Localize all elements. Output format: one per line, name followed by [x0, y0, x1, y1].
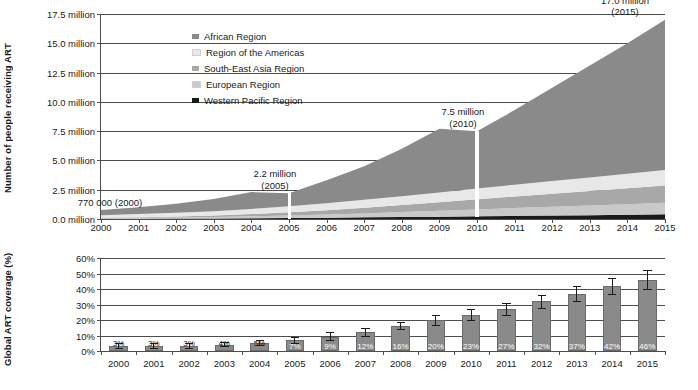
error-bar-cap-upper-2000: [115, 343, 123, 344]
bottom-chart-x-tick-label-2011: 2011: [488, 358, 524, 369]
error-bar-cap-lower-2014: [608, 294, 616, 295]
legend-item-south-east-asia-region[interactable]: South-East Asia Region: [192, 60, 392, 76]
top-chart-x-tick-label-2009: 2009: [421, 222, 457, 233]
error-bar-cap-lower-2008: [397, 329, 405, 330]
legend-swatch-icon: [192, 66, 199, 71]
bottom-chart-x-tick-label-2013: 2013: [559, 358, 595, 369]
legend-swatch-icon: [192, 98, 199, 103]
legend-item-label: South-East Asia Region: [204, 63, 304, 74]
bottom-chart-x-tickmark: [524, 351, 525, 355]
bottom-chart-x-tick-label-2008: 2008: [383, 358, 419, 369]
bottom-chart-y-tick-label: 0%: [81, 346, 95, 357]
top-chart-x-tick-label-2012: 2012: [534, 222, 570, 233]
error-bar-2011: [506, 303, 507, 315]
callout-2010-year: (2010): [411, 118, 515, 130]
bottom-chart-x-tickmark: [101, 351, 102, 355]
bottom-chart-x-tick-label-2006: 2006: [312, 358, 348, 369]
bar-2015[interactable]: [638, 280, 656, 351]
error-bar-cap-lower-2001: [150, 348, 158, 349]
bottom-chart-x-tickmark: [665, 351, 666, 355]
top-chart-x-tick-label-2014: 2014: [609, 222, 645, 233]
bottom-chart-x-tick-label-2000: 2000: [101, 358, 137, 369]
top-chart-y-axis-label: Number of people receiving ART: [2, 18, 16, 218]
top-chart-y-tick-label: 2.5 million: [52, 184, 95, 195]
bar-value-label-2006: 9%: [317, 342, 343, 351]
legend-swatch-icon: [192, 81, 201, 88]
error-bar-2009: [435, 315, 436, 324]
error-bar-cap-upper-2004: [256, 340, 264, 341]
error-bar-cap-upper-2001: [150, 343, 158, 344]
error-bar-2013: [576, 286, 577, 302]
error-bar-cap-lower-2002: [185, 348, 193, 349]
bottom-chart-x-tickmark: [454, 351, 455, 355]
bottom-chart-x-tickmark: [630, 351, 631, 355]
top-chart-y-tick-label: 5.0 million: [52, 155, 95, 166]
bottom-chart-x-tick-label-2014: 2014: [594, 358, 630, 369]
bottom-chart-y-tick-label: 60%: [76, 253, 95, 264]
top-chart-x-tick-label-2010: 2010: [459, 222, 495, 233]
error-bar-cap-upper-2013: [573, 286, 581, 287]
top-chart-x-tick-label-2013: 2013: [572, 222, 608, 233]
top-chart-legend: African RegionRegion of the AmericasSout…: [192, 28, 392, 109]
top-chart-x-tick-label-2000: 2000: [83, 222, 119, 233]
bottom-chart-x-tickmark: [242, 351, 243, 355]
legend-item-european-region[interactable]: European Region: [192, 77, 392, 93]
error-bar-cap-lower-2005: [291, 343, 299, 344]
top-chart-y-tick-label: 12.5 million: [47, 67, 95, 78]
bottom-chart-x-tick-label-2012: 2012: [524, 358, 560, 369]
callout-2015-year: (2015): [573, 6, 677, 18]
error-bar-cap-upper-2003: [220, 342, 228, 343]
top-chart-x-tick-label-2008: 2008: [384, 222, 420, 233]
bottom-chart-x-tick-label-2001: 2001: [136, 358, 172, 369]
error-bar-cap-upper-2014: [608, 278, 616, 279]
callout-2000-value: 770 000 (2000): [62, 197, 158, 209]
error-bar-cap-lower-2004: [256, 345, 264, 346]
error-bar-cap-lower-2012: [538, 308, 546, 309]
bottom-chart-x-tickmark: [559, 351, 560, 355]
bottom-chart-x-tickmark: [207, 351, 208, 355]
art-coverage-figure: Number of people receiving ART 17.5 mill…: [0, 0, 698, 390]
callout-2000: 770 000 (2000): [62, 197, 158, 209]
bar-value-label-2007: 12%: [352, 342, 378, 351]
callout-2005-value: 2.2 million: [223, 168, 327, 180]
bottom-chart-plot-area: 3%3%3%4%5%7%9%12%16%20%23%27%32%37%42%46…: [101, 258, 665, 351]
legend-item-region-of-the-americas[interactable]: Region of the Americas: [192, 44, 392, 60]
error-bar-2007: [365, 328, 366, 336]
bottom-chart-x-tickmark: [418, 351, 419, 355]
error-bar-2015: [647, 270, 648, 289]
error-bar-cap-lower-2015: [643, 289, 651, 290]
bottom-chart-x-tick-label-2015: 2015: [629, 358, 665, 369]
bottom-chart-x-tickmark: [348, 351, 349, 355]
error-bar-cap-lower-2000: [115, 348, 123, 349]
legend-item-african-region[interactable]: African Region: [192, 28, 392, 44]
bottom-chart-x-tickmark: [383, 351, 384, 355]
bottom-chart-y-tick-label: 10%: [76, 330, 95, 341]
bar-value-label-2010: 23%: [458, 342, 484, 351]
top-chart-x-tick-label-2004: 2004: [233, 222, 269, 233]
error-bar-cap-upper-2010: [467, 309, 475, 310]
bottom-chart-x-tick-label-2003: 2003: [206, 358, 242, 369]
top-chart-x-tick-label-2007: 2007: [346, 222, 382, 233]
legend-item-label: Western Pacific Region: [204, 95, 303, 106]
legend-item-label: Region of the Americas: [206, 47, 304, 58]
error-bar-cap-lower-2010: [467, 320, 475, 321]
bar-value-label-2008: 16%: [387, 342, 413, 351]
error-bar-cap-lower-2007: [361, 336, 369, 337]
bar-value-label-2015: 46%: [634, 342, 660, 351]
callout-2010-leader-line: [475, 131, 479, 217]
error-bar-cap-lower-2011: [502, 315, 510, 316]
top-chart-y-tick-label: 17.5 million: [47, 9, 95, 20]
error-bar-cap-upper-2009: [432, 315, 440, 316]
error-bar-2012: [541, 295, 542, 307]
top-chart-x-tick-label-2015: 2015: [647, 222, 683, 233]
bottom-chart-x-tickmark: [489, 351, 490, 355]
legend-item-western-pacific-region[interactable]: Western Pacific Region: [192, 93, 392, 109]
error-bar-cap-upper-2008: [397, 322, 405, 323]
bar-value-label-2013: 37%: [564, 342, 590, 351]
bottom-chart-y-tick-label: 30%: [76, 299, 95, 310]
bottom-chart-x-tickmark: [136, 351, 137, 355]
error-bar-2014: [612, 278, 613, 294]
bar-value-label-2009: 20%: [423, 342, 449, 351]
top-chart-x-axis-line: [101, 219, 666, 220]
bottom-chart-gridline: [101, 258, 665, 259]
